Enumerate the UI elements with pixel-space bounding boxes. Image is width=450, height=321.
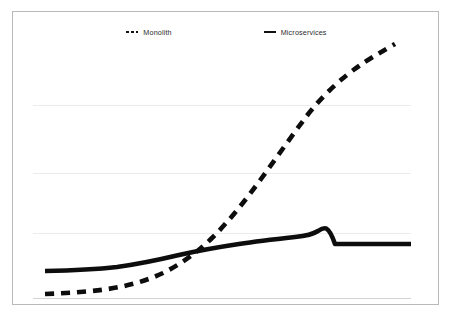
series-line-monolith <box>45 44 395 294</box>
chart-figure: Monolith Microservices <box>12 11 439 305</box>
chart-svg <box>13 12 440 306</box>
series-line-microservices <box>45 228 411 271</box>
plot-area <box>13 12 440 306</box>
